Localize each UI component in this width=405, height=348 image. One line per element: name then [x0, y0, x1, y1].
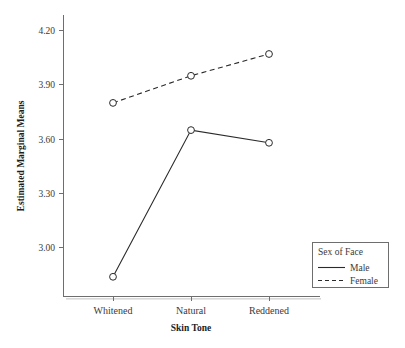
y-tick-marks	[59, 31, 64, 248]
series-male-line	[113, 130, 269, 277]
axis-frame	[64, 15, 321, 297]
y-tick-label-3-60: 3.60	[38, 135, 55, 145]
data-point-female-reddened	[266, 51, 273, 58]
axis-shadow	[66, 298, 321, 300]
x-tick-label-natural: Natural	[176, 305, 206, 316]
y-tick-labels: 4.20 3.90 3.60 3.30 3.00	[38, 26, 55, 253]
data-point-female-whitened	[110, 100, 117, 107]
data-point-male-whitened	[110, 273, 117, 280]
y-tick-label-3-30: 3.30	[38, 189, 55, 199]
data-point-male-reddened	[266, 139, 273, 146]
y-tick-label-3-00: 3.00	[38, 243, 55, 253]
y-tick-label-3-90: 3.90	[38, 80, 55, 90]
x-tick-label-reddened: Reddened	[249, 305, 289, 316]
legend-label-male: Male	[350, 263, 370, 273]
data-point-male-natural	[188, 127, 195, 134]
x-tick-labels: Whitened Natural Reddened	[94, 305, 289, 316]
x-tick-label-whitened: Whitened	[94, 305, 133, 316]
data-point-female-natural	[188, 72, 195, 79]
series-female	[110, 51, 273, 107]
legend-label-female: Female	[350, 276, 378, 286]
y-axis-title: Estimated Marginal Means	[16, 100, 26, 211]
series-male	[110, 127, 273, 280]
estimated-marginal-means-chart: 4.20 3.90 3.60 3.30 3.00 Whitened Natura…	[0, 0, 405, 348]
legend: Sex of Face Male Female	[313, 243, 389, 288]
x-axis-title: Skin Tone	[171, 323, 211, 333]
chart-canvas: 4.20 3.90 3.60 3.30 3.00 Whitened Natura…	[0, 0, 405, 348]
y-tick-label-4-20: 4.20	[38, 26, 55, 36]
legend-title: Sex of Face	[318, 247, 363, 257]
